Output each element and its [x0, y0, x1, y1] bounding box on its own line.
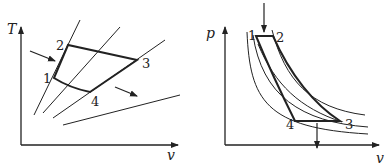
point-4-left: 4 — [91, 94, 99, 109]
point-4-right: 4 — [286, 117, 294, 132]
constant-line-a — [34, 20, 80, 115]
heat-in-arrow — [30, 51, 55, 61]
thermodynamic-diagrams: T v 2 1 3 4 p v 1 2 3 4 — [0, 0, 388, 166]
point-3-left: 3 — [142, 56, 150, 71]
constant-line-d — [63, 95, 180, 125]
heat-out-arrow — [115, 87, 137, 96]
point-2-right: 2 — [276, 30, 284, 45]
point-1-right: 1 — [248, 28, 256, 43]
diagram-canvas: T v 2 1 3 4 p v 1 2 3 4 — [0, 0, 388, 166]
point-3-right: 3 — [345, 117, 353, 132]
p-v-diagram — [225, 3, 379, 148]
point-1-left: 1 — [43, 71, 51, 86]
point-2-left: 2 — [56, 38, 64, 53]
constant-line-b — [43, 27, 120, 113]
t-axis-label: T — [7, 21, 18, 37]
v-axis-label-right: v — [376, 150, 384, 166]
cycle-path — [54, 45, 137, 92]
curve-isotherm-low — [253, 35, 368, 127]
p-axis-label: p — [206, 25, 215, 41]
v-axis-label-left: v — [167, 147, 175, 163]
